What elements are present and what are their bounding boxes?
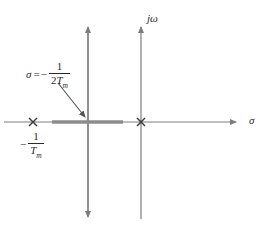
sigma-symbol: σ xyxy=(26,69,31,80)
pole-fraction-denominator: Tm xyxy=(28,144,44,158)
sigma-value-label: σ = − 1 2Tm xyxy=(26,61,71,88)
fraction-one-over-two-tm: 1 2Tm xyxy=(49,61,70,88)
root-locus-figure: σ = − 1 2Tm − 1 Tm jω σ xyxy=(0,0,269,235)
fraction-numerator: 1 xyxy=(55,61,65,73)
minus-sign: − xyxy=(41,69,47,80)
equals-sign: = xyxy=(33,69,39,80)
pole-fraction-numerator: 1 xyxy=(31,131,41,143)
pole-denominator-subscript: m xyxy=(36,151,41,160)
pole-value-label: − 1 Tm xyxy=(20,131,45,158)
plot-canvas xyxy=(0,0,269,235)
omega-symbol: ω xyxy=(150,12,158,24)
denominator-variable: T xyxy=(56,74,62,86)
fraction-one-over-tm: 1 Tm xyxy=(28,131,44,158)
denominator-subscript: m xyxy=(63,81,68,90)
pole-minus-sign: − xyxy=(20,139,26,150)
fraction-denominator: 2Tm xyxy=(49,74,70,88)
imaginary-axis-label: jω xyxy=(147,13,158,24)
real-axis-label: σ xyxy=(249,115,254,126)
